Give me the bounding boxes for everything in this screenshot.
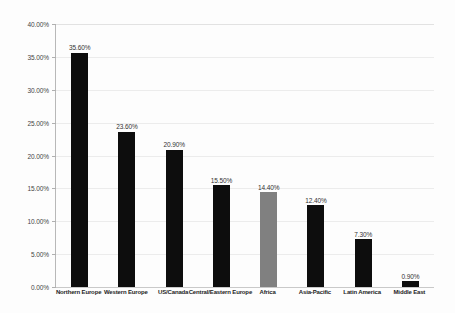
- x-axis-tick-label: Northern Europe: [56, 289, 101, 295]
- y-axis-tick-label: 35.00%: [28, 53, 49, 60]
- gridline: [56, 90, 434, 91]
- bar-value-label: 35.60%: [50, 44, 110, 51]
- bar-value-label: 15.50%: [191, 177, 251, 184]
- y-axis-tick: [52, 287, 56, 288]
- x-axis-tick-label: Asia-Pacific: [299, 289, 331, 295]
- bar[interactable]: 23.60%: [118, 132, 135, 287]
- bar-value-label: 23.60%: [97, 123, 157, 130]
- y-axis-tick-label: 0.00%: [31, 284, 49, 291]
- bar-value-label: 12.40%: [286, 197, 346, 204]
- y-axis-tick: [52, 24, 56, 25]
- bar-value-label: 14.40%: [239, 184, 299, 191]
- bar-group[interactable]: 7.30%: [333, 239, 393, 287]
- x-axis-tick-label: US/Canada: [158, 289, 188, 295]
- gridline: [56, 287, 434, 288]
- bar[interactable]: 20.90%: [166, 150, 183, 287]
- y-axis-tick-label: 10.00%: [28, 218, 49, 225]
- y-axis-tick-label: 15.00%: [28, 185, 49, 192]
- bar-value-label: 20.90%: [144, 141, 204, 148]
- bar-chart: 0.00%5.00%10.00%15.00%20.00%25.00%30.00%…: [0, 0, 455, 313]
- x-axis-tick-label: Middle East: [394, 289, 426, 295]
- y-axis: 0.00%5.00%10.00%15.00%20.00%25.00%30.00%…: [0, 24, 49, 287]
- y-axis-tick-label: 5.00%: [31, 251, 49, 258]
- x-axis-tick-label: Western Europe: [104, 289, 148, 295]
- x-axis-tick-label: Central/Eastern Europe: [189, 289, 252, 295]
- bar[interactable]: 35.60%: [71, 53, 88, 287]
- x-axis: Northern EuropeWestern EuropeUS/CanadaCe…: [55, 289, 434, 303]
- y-axis-tick-label: 40.00%: [28, 21, 49, 28]
- bar[interactable]: 12.40%: [307, 205, 324, 287]
- gridline: [56, 57, 434, 58]
- bar-value-label: 0.90%: [380, 273, 440, 280]
- plot-area: 35.60%23.60%20.90%15.50%14.40%12.40%7.30…: [55, 24, 434, 287]
- bar[interactable]: 0.90%: [402, 281, 419, 287]
- x-axis-tick-label: Latin America: [343, 289, 381, 295]
- bar-group[interactable]: 0.90%: [380, 281, 440, 287]
- bar-value-label: 7.30%: [333, 231, 393, 238]
- gridline: [56, 24, 434, 25]
- x-axis-tick-label: Africa: [260, 289, 276, 295]
- bar[interactable]: 7.30%: [355, 239, 372, 287]
- bar[interactable]: 14.40%: [260, 192, 277, 287]
- y-axis-tick-label: 25.00%: [28, 119, 49, 126]
- y-axis-tick-label: 30.00%: [28, 86, 49, 93]
- bar[interactable]: 15.50%: [213, 185, 230, 287]
- y-axis-tick-label: 20.00%: [28, 152, 49, 159]
